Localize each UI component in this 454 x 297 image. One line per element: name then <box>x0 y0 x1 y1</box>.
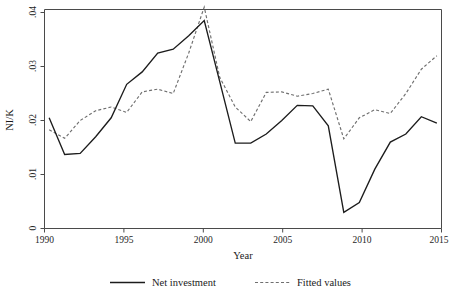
x-tick-label-2010: 2010 <box>353 235 372 245</box>
x-tick-label-2015: 2015 <box>430 235 449 245</box>
y-tick-label-01: .01 <box>28 168 38 180</box>
x-axis-title: Year <box>233 250 253 261</box>
chart-figure: 0 .01 .02 .03 .04 1990 1995 2000 2005 20… <box>0 0 454 297</box>
x-tick-label-1995: 1995 <box>114 235 133 245</box>
y-tick-label-03: .03 <box>28 60 38 72</box>
x-tick-label-2005: 2005 <box>273 235 292 245</box>
y-tick-label-02: .02 <box>28 114 38 126</box>
x-tick-label-2000: 2000 <box>194 235 213 245</box>
chart-canvas: 0 .01 .02 .03 .04 1990 1995 2000 2005 20… <box>0 0 454 297</box>
x-tick-label-1990: 1990 <box>35 235 54 245</box>
y-tick-label-0: 0 <box>28 225 38 230</box>
legend-label-net-investment: Net investment <box>152 277 216 288</box>
legend-label-fitted-values: Fitted values <box>297 277 351 288</box>
y-axis-title: NI/K <box>4 109 15 131</box>
y-tick-label-04: .04 <box>28 6 38 18</box>
